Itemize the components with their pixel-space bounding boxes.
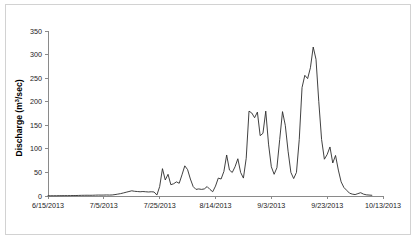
x-tick-label: 10/13/2013 — [365, 201, 401, 210]
y-tick-label: 50 — [34, 168, 42, 177]
x-tick-label: 8/14/2013 — [200, 201, 232, 210]
y-axis-title: Discharge (m3/sec) — [14, 79, 24, 156]
x-axis-ticks: 6/15/20137/5/20137/25/20138/14/20139/3/2… — [32, 196, 401, 210]
y-axis-title-suffix: /sec) — [14, 79, 24, 99]
x-tick-label: 6/15/2013 — [32, 201, 64, 210]
discharge-hydrograph-chart: Discharge (m3/sec) 050100150200250300350… — [0, 0, 417, 244]
y-tick-label: 0 — [38, 192, 42, 201]
y-tick-label: 150 — [30, 121, 42, 130]
y-tick-label: 250 — [30, 74, 42, 83]
x-tick-label: 9/3/2013 — [257, 201, 285, 210]
y-tick-label: 350 — [30, 27, 42, 36]
y-tick-label: 100 — [30, 144, 42, 153]
chart-screenshot: Discharge (m3/sec) 050100150200250300350… — [0, 0, 417, 244]
y-tick-label: 200 — [30, 97, 42, 106]
x-tick-label: 7/25/2013 — [144, 201, 176, 210]
y-tick-label: 300 — [30, 50, 42, 59]
x-tick-label: 7/5/2013 — [90, 201, 118, 210]
svg-text:Discharge (m3/sec): Discharge (m3/sec) — [14, 79, 24, 156]
y-axis-ticks: 050100150200250300350 — [30, 27, 48, 201]
y-axis-title-prefix: Discharge (m — [14, 102, 24, 157]
x-tick-label: 9/23/2013 — [311, 201, 343, 210]
discharge-series-line — [48, 47, 372, 196]
